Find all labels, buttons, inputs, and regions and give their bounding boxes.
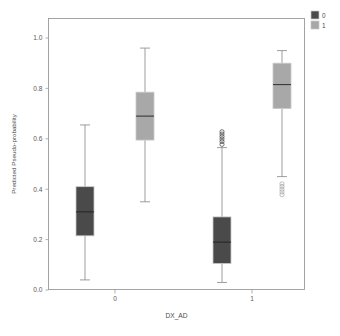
x-axis-title: DX_AD — [166, 312, 188, 320]
boxplot-figure: 0.00.20.40.60.81.0 01 Predicted Pseudo-p… — [0, 0, 340, 336]
y-tick-label: 1.0 — [33, 34, 42, 41]
figure-background — [0, 0, 340, 336]
x-tick-label: 1 — [250, 295, 254, 302]
y-tick-label: 0.2 — [33, 236, 42, 243]
box-body — [213, 217, 231, 264]
legend-label: 1 — [322, 22, 326, 29]
y-tick-label: 0.6 — [33, 135, 42, 142]
legend-swatch — [311, 21, 319, 29]
x-tick-label: 0 — [113, 295, 117, 302]
y-tick-label: 0.8 — [33, 85, 42, 92]
legend-swatch — [311, 11, 319, 19]
legend-label: 0 — [322, 12, 326, 19]
box-body — [273, 63, 291, 108]
y-tick-label: 0.0 — [33, 286, 42, 293]
box-body — [76, 187, 94, 236]
y-axis-title: Predicted Pseudo-probability — [10, 113, 17, 194]
y-tick-label: 0.4 — [33, 186, 42, 193]
